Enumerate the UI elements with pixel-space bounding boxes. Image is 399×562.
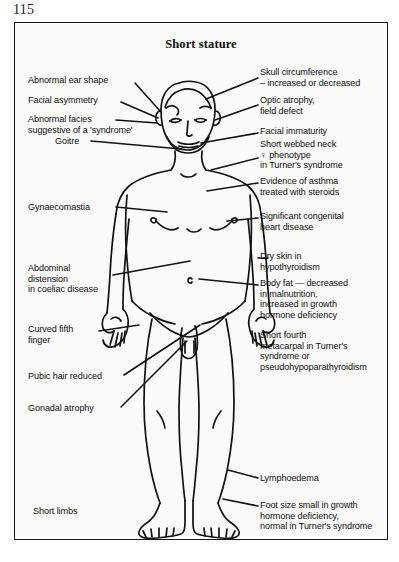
figure-frame: Short stature <box>14 22 388 540</box>
page-number: 115 <box>13 2 34 18</box>
label-gynaecomastia: Gynaecomastia <box>28 202 90 213</box>
label-goitre: Goitre <box>55 136 79 147</box>
label-gonadal-atrophy: Gonadal atrophy <box>28 403 94 414</box>
label-abnormal-ear-shape: Abnormal ear shape <box>28 75 108 86</box>
label-foot-size: Foot size small in growth hormone defici… <box>260 500 372 532</box>
label-evidence-of-asthma: Evidence of asthma treated with steroids <box>260 176 339 197</box>
label-short-webbed-neck: Short webbed neck ♀ phenotype in Turner'… <box>260 139 343 171</box>
label-short-fourth-metacarpal: Short fourth metacarpal in Turner's synd… <box>260 330 367 372</box>
label-optic-atrophy: Optic atrophy, field defect <box>260 95 315 116</box>
label-significant-congenital-heart-disease: Significant congenital heart disease <box>260 211 344 232</box>
label-facial-immaturity: Facial immaturity <box>260 126 327 137</box>
label-body-fat: Body fat — decreased in malnutrition, in… <box>260 278 348 320</box>
label-skull-circumference: Skull circumference – increased or decre… <box>260 67 360 88</box>
label-facial-asymmetry: Facial asymmetry <box>28 95 98 106</box>
label-pubic-hair-reduced: Pubic hair reduced <box>28 371 102 382</box>
label-curved-fifth-finger: Curved fifth finger <box>28 324 73 345</box>
label-abnormal-facies: Abnormal facies suggestive of a 'syndrom… <box>28 114 133 135</box>
label-short-limbs: Short limbs <box>33 506 77 517</box>
label-abdominal-distension: Abdominal distension in coeliac disease <box>28 263 98 295</box>
label-dry-skin-hypothyroidism: Dry skin in hypothyroidism <box>260 251 320 272</box>
label-lymphoedema: Lymphoedema <box>260 473 319 484</box>
